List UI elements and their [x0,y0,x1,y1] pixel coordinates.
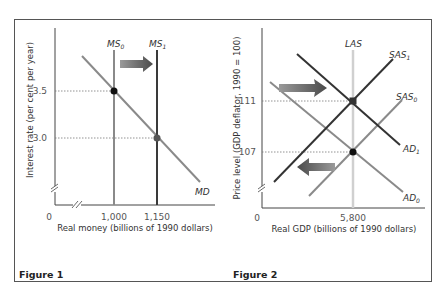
fig2-xtick-5800: 5,800 [340,213,366,223]
ad1-label: AD1 [402,144,420,155]
sas0-label: SAS0 [396,92,418,103]
fig1-xtick-0: 0 [46,212,52,222]
sas1-label: SAS1 [389,50,410,61]
ad0-label: AD0 [402,193,420,204]
figure-2-chart: 111 107 0 5,800 Real GDP (billions of 19… [232,28,425,234]
md-label: MD [195,187,210,197]
las-label: LAS [345,39,362,49]
fig1-equilibrium-b [154,135,161,142]
fig1-x-axis-break-icon [72,201,82,209]
md-curve [82,56,200,182]
fig2-equilibrium-111 [350,98,357,105]
figure-2-label: Figure 2 [233,269,277,280]
ad0-curve [270,82,403,192]
charts-canvas: 3.5 3.0 0 1,000 1,150 Real money (billio… [0,0,438,296]
fig1-equilibrium-a [111,88,118,95]
fig1-x-axis-title: Real money (billions of 1990 dollars) [57,223,213,233]
figure-1-label: Figure 1 [19,269,63,280]
sas0-curve [309,100,402,196]
fig2-y-axis-title: Price level (GDP deflator, 1990 = 100) [232,37,242,200]
fig1-xtick-1150: 1,150 [144,212,170,222]
ms0-label: MS0 [107,39,124,50]
fig2-xtick-0: 0 [254,213,260,223]
fig2-equilibrium-107 [350,149,357,156]
sas-shift-left-arrow-icon [297,158,335,176]
fig1-y-axis-title: Interest rate (per cent per year) [25,42,35,178]
fig1-xtick-1000: 1,000 [101,212,127,222]
ms1-label: MS1 [149,39,166,50]
figure-1-chart: 3.5 3.0 0 1,000 1,150 Real money (billio… [25,28,215,233]
fig2-x-axis-title: Real GDP (billions of 1990 dollars) [272,224,417,234]
fig1-shift-right-arrow-icon [120,56,153,72]
